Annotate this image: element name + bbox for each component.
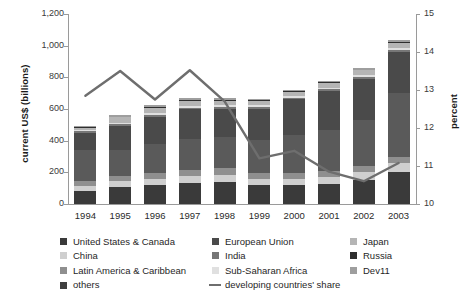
y-axis-left-tick-label: 1,200 <box>41 9 64 18</box>
y-axis-right-tick <box>416 204 420 205</box>
y-axis-right-tick-label: 11 <box>424 161 433 170</box>
legend-item[interactable]: Japan <box>350 234 392 249</box>
y-axis-left-tick-label: 800 <box>49 72 64 81</box>
x-axis-line <box>68 204 417 205</box>
legend-item-label: others <box>73 280 99 290</box>
legend-color-swatch-icon <box>212 238 219 245</box>
legend-item[interactable]: Latin America & Caribbean <box>60 263 186 278</box>
legend-color-swatch-icon <box>350 267 357 274</box>
legend-item[interactable]: Dev11 <box>350 263 392 278</box>
legend-color-swatch-icon <box>350 252 357 259</box>
legend-item[interactable]: Russia <box>350 249 392 264</box>
y-axis-left-tick-label: 1,000 <box>41 41 64 50</box>
legend-item[interactable]: United States & Canada <box>60 234 186 249</box>
y-axis-left-tick <box>64 204 68 205</box>
legend-line-swatch-icon <box>209 284 221 287</box>
legend-item-label: India <box>225 251 246 261</box>
legend-color-swatch-icon <box>350 238 357 245</box>
legend-column-2: European UnionIndiaSub-Saharan Africadev… <box>212 234 340 292</box>
legend-item[interactable]: European Union <box>212 234 340 249</box>
y-axis-right-tick-label: 12 <box>424 123 434 132</box>
legend-column-3: JapanRussiaDev11 <box>350 234 392 278</box>
y-axis-left-tick-label: 400 <box>49 136 64 145</box>
y-axis-right-tick <box>416 14 420 15</box>
plot-area: 02004006008001,0001,200 101112131415 199… <box>68 14 416 204</box>
y-axis-left-title: current US$ (billions) <box>19 44 30 184</box>
y-axis-left-tick-label: 600 <box>49 104 64 113</box>
legend-color-swatch-icon <box>60 238 67 245</box>
x-axis-label-2003: 2003 <box>377 210 421 221</box>
y-axis-right-tick <box>416 128 420 129</box>
y-axis-right-tick-label: 10 <box>424 199 434 208</box>
y-axis-right-tick <box>416 52 420 53</box>
legend-item-label: Japan <box>363 237 389 247</box>
legend-item[interactable]: India <box>212 249 340 264</box>
line-series-developing-countries-share <box>68 14 416 204</box>
legend-color-swatch-icon <box>60 252 67 259</box>
y-axis-right-tick-label: 14 <box>424 47 434 56</box>
y-axis-left-tick-label: 0 <box>59 199 64 208</box>
y-axis-left-tick-label: 200 <box>49 167 64 176</box>
legend-color-swatch-icon <box>212 252 219 259</box>
legend-item-label: United States & Canada <box>73 237 175 247</box>
y-axis-right-title: percent <box>448 52 459 172</box>
legend-item-label: Sub-Saharan Africa <box>225 266 307 276</box>
legend-item[interactable]: developing countries' share <box>212 278 340 293</box>
legend-item[interactable]: Sub-Saharan Africa <box>212 263 340 278</box>
y-axis-right-line <box>416 14 417 204</box>
legend-column-1: United States & CanadaChinaLatin America… <box>60 234 186 292</box>
legend-item-label: Latin America & Caribbean <box>73 266 186 276</box>
legend-color-swatch-icon <box>60 267 67 274</box>
y-axis-right-tick <box>416 166 420 167</box>
legend-item-label: China <box>73 251 98 261</box>
chart-canvas: current US$ (billions) percent 020040060… <box>0 0 469 299</box>
legend-item-label: Russia <box>363 251 392 261</box>
y-axis-right-tick <box>416 90 420 91</box>
legend-item[interactable]: others <box>60 278 186 293</box>
legend-item[interactable]: China <box>60 249 186 264</box>
legend-item-label: European Union <box>225 237 294 247</box>
legend-item-label: Dev11 <box>363 266 390 276</box>
legend-color-swatch-icon <box>212 267 219 274</box>
y-axis-right-tick-label: 15 <box>424 9 434 18</box>
legend-item-label: developing countries' share <box>225 280 340 290</box>
legend-color-swatch-icon <box>60 282 67 289</box>
y-axis-right-tick-label: 13 <box>424 85 434 94</box>
